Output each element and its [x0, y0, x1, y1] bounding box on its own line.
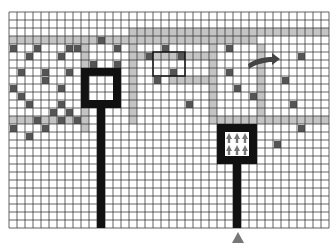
obstacle-cell: [42, 125, 49, 132]
obstacle-cell: [10, 45, 17, 52]
obstacle-cell: [58, 117, 65, 124]
obstacle-cell: [34, 45, 41, 52]
obstacle-cell: [10, 125, 17, 132]
obstacle-cell: [114, 45, 121, 52]
obstacle-cell: [34, 117, 41, 124]
obstacle-cell: [26, 101, 33, 108]
obstacle-cell: [66, 109, 73, 116]
obstacle-cell: [274, 141, 281, 148]
obstacle-cell: [42, 69, 49, 76]
obstacle-cell: [178, 53, 185, 60]
triangle-marker-icon: [232, 232, 244, 243]
obstacle-cell: [74, 117, 81, 124]
grid-world-diagram: [0, 0, 336, 250]
obstacle-cell: [18, 69, 25, 76]
obstacle-cell: [66, 45, 73, 52]
obstacle-cell: [154, 77, 161, 84]
obstacle-cell: [58, 53, 65, 60]
obstacle-cell: [290, 101, 297, 108]
obstacle-cell: [170, 69, 177, 76]
obstacle-cell: [298, 53, 305, 60]
agent-marker-icon: [232, 232, 244, 243]
obstacle-cell: [58, 85, 65, 92]
obstacle-cell: [42, 77, 49, 84]
obstacle-cell: [298, 125, 305, 132]
left-goal-interior: [89, 76, 113, 100]
obstacle-cell: [162, 45, 169, 52]
left-goal-stem: [97, 100, 105, 228]
grid-canvas: [0, 0, 336, 250]
obstacle-cell: [226, 69, 233, 76]
obstacle-cell: [10, 85, 17, 92]
obstacle-cell: [98, 37, 105, 44]
path-segment: [129, 36, 137, 124]
obstacle-cell: [66, 69, 73, 76]
obstacle-cell: [58, 101, 65, 108]
right-goal-stem: [233, 156, 241, 228]
obstacle-cell: [26, 133, 33, 140]
obstacle-cell: [250, 93, 257, 100]
grid-lines: [9, 12, 329, 228]
obstacle-cell: [146, 53, 153, 60]
obstacle-cell: [26, 53, 33, 60]
obstacle-cell: [50, 109, 57, 116]
obstacle-cell: [90, 61, 97, 68]
obstacle-cell: [18, 93, 25, 100]
obstacle-cell: [114, 61, 121, 68]
obstacle-cell: [234, 85, 241, 92]
obstacle-cell: [186, 101, 193, 108]
obstacle-cell: [74, 45, 81, 52]
obstacle-cell: [226, 45, 233, 52]
obstacle-cell: [282, 77, 289, 84]
path-segment: [209, 116, 329, 124]
